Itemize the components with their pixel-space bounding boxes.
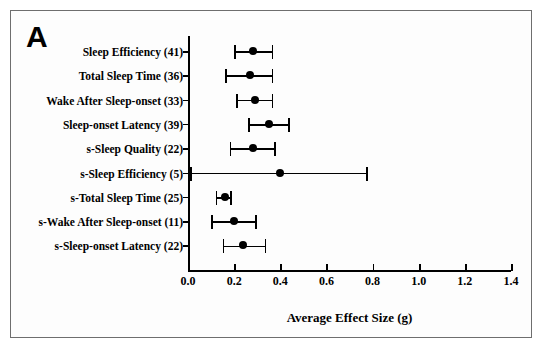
row-label: Sleep-onset Latency (39) <box>63 113 183 137</box>
row-label: s-Wake After Sleep-onset (11) <box>39 210 183 234</box>
effect-size-point <box>249 47 257 55</box>
ci-upper-cap <box>255 215 257 229</box>
x-tick-label: 0.8 <box>353 274 393 289</box>
x-tick-mark <box>326 264 328 271</box>
ci-upper-cap <box>288 118 290 132</box>
ci-lower-cap <box>234 45 236 59</box>
forest-plot-figure: A Sleep Efficiency (41)Total Sleep Time … <box>0 0 544 347</box>
x-tick-label: 1.4 <box>491 274 531 289</box>
x-tick-mark <box>373 264 375 271</box>
effect-size-point <box>265 120 273 128</box>
effect-size-point <box>251 96 259 104</box>
x-tick-label: 0.4 <box>260 274 300 289</box>
row-label: s-Sleep Quality (22) <box>87 137 183 161</box>
x-tick-mark <box>234 264 236 271</box>
ci-upper-cap <box>272 69 274 83</box>
row-label: Sleep Efficiency (41) <box>83 40 183 64</box>
forest-row: Sleep Efficiency (41) <box>0 40 544 64</box>
ci-upper-cap <box>366 167 368 181</box>
row-label: Wake After Sleep-onset (33) <box>46 89 183 113</box>
ci-lower-cap <box>248 118 250 132</box>
forest-row: Wake After Sleep-onset (33) <box>0 89 544 113</box>
effect-size-point <box>239 241 247 249</box>
x-tick-label: 0.0 <box>168 274 208 289</box>
x-tick-mark <box>188 264 190 271</box>
ci-upper-cap <box>272 94 274 108</box>
forest-row: s-Sleep Quality (22) <box>0 137 544 161</box>
ci-lower-cap <box>223 239 225 253</box>
effect-size-point <box>230 217 238 225</box>
ci-lower-cap <box>225 69 227 83</box>
ci-upper-cap <box>272 45 274 59</box>
ci-upper-cap <box>230 191 232 205</box>
effect-size-point <box>246 71 254 79</box>
forest-row: Sleep-onset Latency (39) <box>0 113 544 137</box>
forest-row: s-Wake After Sleep-onset (11) <box>0 210 544 234</box>
row-label: s-Total Sleep Time (25) <box>70 186 183 210</box>
x-tick-label: 1.2 <box>445 274 485 289</box>
row-label: s-Sleep-onset Latency (22) <box>55 234 183 258</box>
effect-size-point <box>221 193 229 201</box>
y-axis-line <box>188 36 190 272</box>
ci-lower-cap <box>236 94 238 108</box>
x-tick-mark <box>465 264 467 271</box>
row-label: Total Sleep Time (36) <box>79 64 183 88</box>
row-label: s-Sleep Efficiency (5) <box>80 162 183 186</box>
ci-lower-cap <box>230 142 232 156</box>
ci-lower-cap <box>211 215 213 229</box>
x-tick-label: 1.0 <box>399 274 439 289</box>
ci-upper-cap <box>265 239 267 253</box>
x-tick-mark <box>280 264 282 271</box>
x-axis-title: Average Effect Size (g) <box>188 310 511 326</box>
effect-size-point <box>276 169 284 177</box>
x-tick-label: 0.2 <box>214 274 254 289</box>
ci-lower-cap <box>216 191 218 205</box>
forest-row: s-Total Sleep Time (25) <box>0 186 544 210</box>
effect-size-point <box>249 144 257 152</box>
x-tick-mark <box>511 264 513 271</box>
ci-lower-cap <box>190 167 192 181</box>
forest-row: Total Sleep Time (36) <box>0 64 544 88</box>
forest-row: s-Sleep Efficiency (5) <box>0 162 544 186</box>
x-tick-label: 0.6 <box>306 274 346 289</box>
forest-row: s-Sleep-onset Latency (22) <box>0 234 544 258</box>
x-tick-mark <box>419 264 421 271</box>
ci-upper-cap <box>274 142 276 156</box>
x-axis-line <box>188 270 511 272</box>
